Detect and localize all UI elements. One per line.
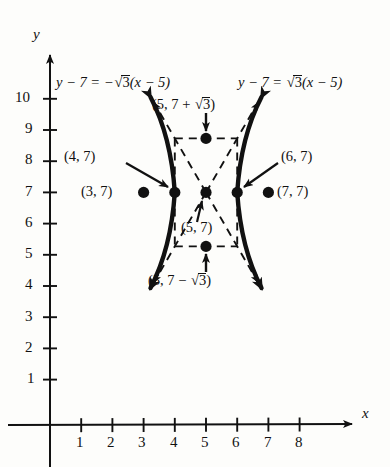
- y-tick-label-10: 10: [15, 89, 30, 106]
- asymptote-left-equation-tail: (x − 5): [130, 74, 170, 90]
- label-center-point: (5, 7): [181, 219, 212, 236]
- x-tick-label-7: 7: [264, 434, 272, 451]
- y-tick-label-4: 4: [25, 276, 33, 293]
- hyperbola-figure: y x 10 9 8 7 6 5 4 3 2 1 1 2 3 4 5 6 7 8…: [0, 0, 390, 467]
- sqrt-glyph-right: √3: [286, 74, 302, 91]
- x-tick-label-5: 5: [201, 434, 209, 451]
- y-tick-label-3: 3: [25, 308, 33, 325]
- label-box-bottom-radicand: 3: [199, 272, 206, 288]
- x-tick-label-1: 1: [76, 434, 84, 451]
- y-axis-label: y: [33, 26, 40, 43]
- x-tick-label-8: 8: [295, 434, 303, 451]
- label-box-top-radicand: 3: [203, 96, 210, 112]
- label-box-top-tail: ): [210, 96, 215, 112]
- sqrt-glyph-left: √3: [114, 74, 130, 91]
- label-box-bottom-lead: (5, 7 −: [148, 272, 190, 288]
- y-tick-label-1: 1: [27, 370, 35, 387]
- asymptote-right-equation-lead: y − 7 =: [238, 74, 286, 90]
- y-tick-label-9: 9: [25, 120, 33, 137]
- point-focus-left: [138, 187, 149, 198]
- asymptote-left-radicand: 3: [123, 74, 130, 90]
- asymptote-right-equation: y − 7 = √3(x − 5): [238, 74, 342, 91]
- y-tick-label-8: 8: [25, 151, 33, 168]
- label-box-bottom-tail: ): [206, 272, 211, 288]
- x-tick-label-6: 6: [232, 434, 240, 451]
- asymptote-left-equation-lead: y − 7 = −: [56, 74, 114, 90]
- asymptote-left-equation: y − 7 = −√3(x − 5): [56, 74, 170, 91]
- y-tick-label-5: 5: [25, 245, 33, 262]
- label-vertex-right: (6, 7): [281, 148, 312, 165]
- x-axis: [8, 418, 352, 433]
- label-box-top-lead: (5, 7 +: [152, 96, 194, 112]
- x-tick-label-3: 3: [138, 434, 146, 451]
- asymptote-right-radicand: 3: [295, 74, 302, 90]
- label-box-top-point: (5, 7 + √3): [152, 96, 215, 113]
- label-focus-left: (3, 7): [81, 183, 112, 200]
- label-vertex-left: (4, 7): [64, 148, 95, 165]
- point-center: [200, 187, 211, 198]
- sqrt-glyph-box-bottom: √3: [190, 272, 206, 289]
- point-vertex-left: [169, 187, 180, 198]
- point-focus-right: [263, 187, 274, 198]
- leader-to-vertex-left: [126, 163, 168, 187]
- x-tick-label-4: 4: [170, 434, 178, 451]
- leader-to-vertex-right: [244, 163, 278, 187]
- sqrt-glyph-box-top: √3: [194, 96, 210, 113]
- point-box-bottom: [200, 241, 211, 252]
- label-focus-right: (7, 7): [277, 183, 308, 200]
- y-tick-label-2: 2: [25, 339, 33, 356]
- y-tick-label-6: 6: [25, 214, 33, 231]
- x-tick-label-2: 2: [107, 434, 115, 451]
- point-box-top: [200, 133, 211, 144]
- x-axis-label: x: [362, 405, 369, 422]
- label-box-bottom-point: (5, 7 − √3): [148, 272, 211, 289]
- point-vertex-right: [232, 187, 243, 198]
- y-tick-label-7: 7: [25, 183, 33, 200]
- asymptote-right-equation-tail: (x − 5): [302, 74, 342, 90]
- y-axis: [43, 55, 57, 467]
